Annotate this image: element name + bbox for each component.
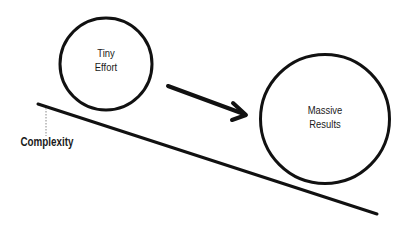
massive-results-label: Massive Results: [292, 104, 358, 132]
tiny-effort-label-line1: Tiny: [77, 47, 134, 61]
massive-results-label-line1: Massive: [292, 104, 358, 118]
complexity-label: Complexity: [20, 135, 74, 149]
massive-results-label-line2: Results: [292, 118, 358, 132]
tiny-effort-label-line2: Effort: [77, 61, 134, 75]
tiny-effort-label: Tiny Effort: [77, 47, 134, 75]
arrow-shaft: [168, 86, 244, 114]
